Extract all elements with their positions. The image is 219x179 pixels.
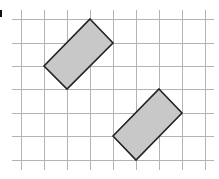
grid-diagram [0, 0, 219, 179]
grid-lines [12, 10, 214, 170]
lower-rectangle [113, 89, 182, 160]
upper-rectangle [44, 19, 113, 89]
